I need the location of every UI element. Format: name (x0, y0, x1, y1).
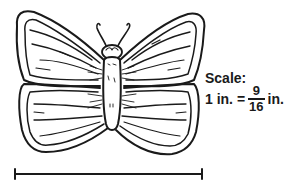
lower-right-wing (116, 84, 199, 154)
scale-fraction: 9 16 (248, 85, 264, 113)
butterfly-body (103, 57, 120, 130)
scale-unit: in. (268, 91, 284, 107)
upper-left-wing (17, 11, 104, 86)
scale-bar (15, 169, 202, 179)
upper-right-wing (120, 14, 204, 87)
fraction-numerator: 9 (252, 85, 261, 97)
fraction-denominator: 16 (248, 101, 264, 113)
scale-lhs: 1 in. = (205, 91, 245, 107)
scale-equation: 1 in. = 9 16 in. (205, 85, 284, 113)
scale-heading: Scale: (205, 70, 246, 86)
lower-left-wing (19, 84, 108, 152)
